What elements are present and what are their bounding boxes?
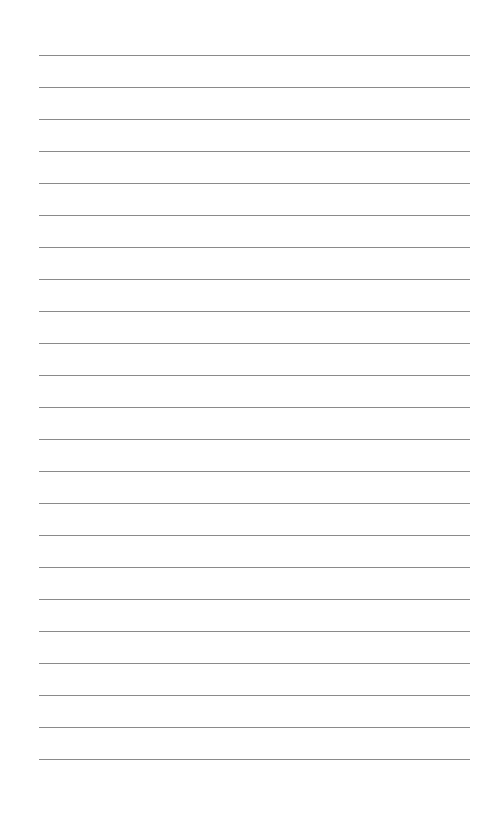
ruled-line: [39, 503, 470, 504]
ruled-line: [39, 631, 470, 632]
ruled-line: [39, 439, 470, 440]
ruled-line: [39, 599, 470, 600]
ruled-line: [39, 535, 470, 536]
ruled-line: [39, 119, 470, 120]
ruled-line: [39, 471, 470, 472]
ruled-line: [39, 151, 470, 152]
ruled-line: [39, 695, 470, 696]
ruled-line: [39, 215, 470, 216]
ruled-line: [39, 311, 470, 312]
lined-paper-sheet: [0, 0, 490, 820]
ruled-line: [39, 567, 470, 568]
ruled-line: [39, 247, 470, 248]
ruled-line: [39, 759, 470, 760]
ruled-line: [39, 375, 470, 376]
ruled-line: [39, 183, 470, 184]
ruled-line: [39, 727, 470, 728]
ruled-line: [39, 55, 470, 56]
ruled-line: [39, 87, 470, 88]
ruled-line: [39, 663, 470, 664]
ruled-line: [39, 343, 470, 344]
ruled-line: [39, 279, 470, 280]
ruled-line: [39, 407, 470, 408]
